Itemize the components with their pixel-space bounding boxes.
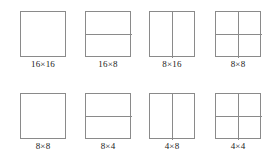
partition-cell: 16×16 bbox=[20, 11, 66, 57]
vertical-divider bbox=[172, 94, 173, 140]
partition-block bbox=[215, 11, 261, 57]
partition-cell: 4×4 bbox=[215, 93, 261, 139]
partition-row-top: 16×16 16×8 8×16 8×8 bbox=[0, 0, 275, 82]
partition-cell: 16×8 bbox=[85, 11, 131, 57]
partition-label: 8×16 bbox=[137, 59, 207, 70]
partition-label: 8×8 bbox=[203, 59, 273, 70]
horizontal-divider bbox=[216, 34, 262, 35]
partition-cell: 4×8 bbox=[149, 93, 195, 139]
partition-row-bottom: 8×8 8×4 4×8 4×4 bbox=[0, 82, 275, 151]
partition-figure: 16×16 16×8 8×16 8×8 8×8 bbox=[0, 0, 275, 151]
horizontal-divider bbox=[216, 116, 262, 117]
vertical-divider bbox=[238, 12, 239, 58]
horizontal-divider bbox=[86, 116, 132, 117]
partition-label: 16×16 bbox=[8, 59, 78, 70]
partition-cell: 8×8 bbox=[215, 11, 261, 57]
partition-block bbox=[149, 11, 195, 57]
partition-block bbox=[20, 11, 66, 57]
partition-cell: 8×4 bbox=[85, 93, 131, 139]
vertical-divider bbox=[172, 12, 173, 58]
partition-cell: 8×16 bbox=[149, 11, 195, 57]
partition-cell: 8×8 bbox=[20, 93, 66, 139]
horizontal-divider bbox=[86, 34, 132, 35]
vertical-divider bbox=[238, 94, 239, 140]
partition-label: 4×8 bbox=[137, 141, 207, 151]
partition-label: 8×8 bbox=[8, 141, 78, 151]
partition-block bbox=[149, 93, 195, 139]
partition-label: 16×8 bbox=[73, 59, 143, 70]
partition-block bbox=[85, 11, 131, 57]
partition-block bbox=[215, 93, 261, 139]
partition-label: 8×4 bbox=[73, 141, 143, 151]
partition-block bbox=[85, 93, 131, 139]
partition-label: 4×4 bbox=[203, 141, 273, 151]
partition-block bbox=[20, 93, 66, 139]
